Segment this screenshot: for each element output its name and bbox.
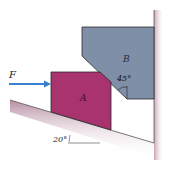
- wedge-angle-label: 45°: [116, 74, 131, 83]
- force-label: F: [8, 69, 17, 80]
- force-arrow-head-icon: [44, 81, 51, 88]
- wall: [154, 10, 164, 160]
- wedge-diagram: F B A 45° 20°: [0, 0, 182, 170]
- incline-angle-label: 20°: [52, 135, 67, 144]
- incline-angle-tick: [69, 135, 70, 142]
- block-a-label: A: [79, 93, 87, 103]
- block-b-label: B: [122, 54, 130, 64]
